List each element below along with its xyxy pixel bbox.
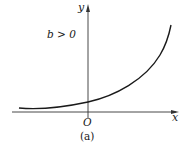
- x-axis-label: x: [172, 112, 178, 123]
- exponential-curve: [19, 25, 171, 109]
- figure-canvas: [0, 0, 182, 151]
- origin-label: O: [83, 117, 92, 128]
- y-axis-arrow-icon: [86, 4, 90, 12]
- y-axis-label: y: [78, 2, 84, 13]
- condition-label: b > 0: [47, 29, 76, 40]
- figure-caption: (a): [80, 131, 94, 142]
